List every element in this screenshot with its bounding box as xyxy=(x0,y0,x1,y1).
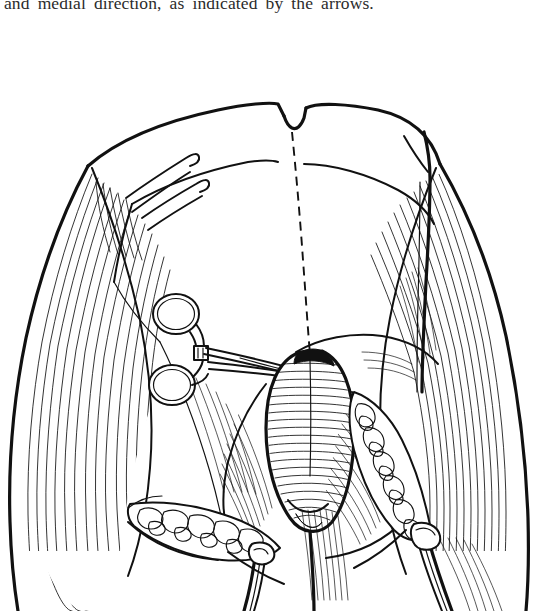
caption-text: and medial direction, as indicated by th… xyxy=(4,0,538,13)
figure-background xyxy=(0,52,542,611)
clamp-upper-ring[interactable] xyxy=(153,294,199,334)
figure-illustration: .ink { fill:none; stroke:#111; stroke-li… xyxy=(0,52,542,611)
clamp-lower-ring[interactable] xyxy=(149,365,195,405)
caption-region: and medial direction, as indicated by th… xyxy=(0,0,542,14)
page: and medial direction, as indicated by th… xyxy=(0,0,542,611)
figure-canvas: .ink { fill:none; stroke:#111; stroke-li… xyxy=(0,52,542,611)
left-cord-node xyxy=(249,542,274,564)
